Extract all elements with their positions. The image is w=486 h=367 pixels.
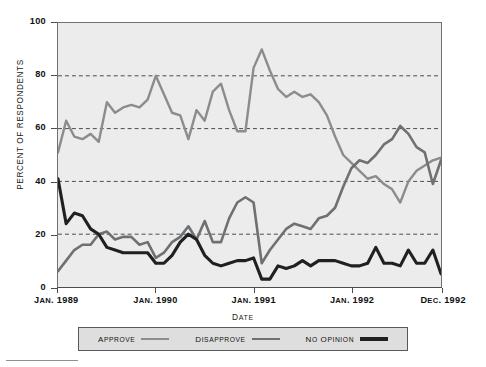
y-tick-label: 60 bbox=[0, 122, 46, 132]
poll-line-chart-figure: PERCENT OF RESPONDENTS 100806040200 JAN.… bbox=[0, 0, 486, 367]
plot-canvas bbox=[58, 23, 441, 287]
y-tick-label: 20 bbox=[0, 229, 46, 239]
y-tick-label: 40 bbox=[0, 176, 46, 186]
legend-label: NO OPINION bbox=[306, 335, 355, 344]
x-tick-mark bbox=[254, 288, 255, 293]
x-tick-label: JAN. 1991 bbox=[232, 295, 276, 305]
x-tick-mark bbox=[442, 288, 443, 293]
x-axis-title: DATE bbox=[0, 312, 486, 322]
scan-artifact-rule bbox=[6, 360, 78, 361]
x-tick-label: JAN. 1992 bbox=[330, 295, 374, 305]
legend-item-approve[interactable]: APPROVE bbox=[98, 335, 169, 344]
series-line-no-opinion bbox=[58, 179, 441, 279]
legend-swatch-icon bbox=[360, 337, 388, 340]
x-tick-label: DEC. 1992 bbox=[420, 295, 465, 305]
y-tick-label: 80 bbox=[0, 69, 46, 79]
legend-swatch-icon bbox=[252, 338, 280, 341]
y-tick-label: 0 bbox=[0, 282, 46, 292]
x-tick-mark bbox=[352, 288, 353, 293]
x-tick-mark bbox=[57, 288, 58, 293]
legend-item-no-opinion[interactable]: NO OPINION bbox=[306, 335, 389, 344]
legend-label: APPROVE bbox=[98, 335, 135, 344]
x-tick-label: JAN. 1990 bbox=[133, 295, 177, 305]
x-tick-mark bbox=[155, 288, 156, 293]
chart-legend: APPROVEDISAPPROVENO OPINION bbox=[78, 327, 408, 351]
plot-area bbox=[57, 22, 442, 288]
x-tick-label: JAN. 1989 bbox=[34, 295, 78, 305]
series-line-approve bbox=[58, 49, 441, 202]
y-tick-label: 100 bbox=[0, 16, 46, 26]
legend-item-disapprove[interactable]: DISAPPROVE bbox=[195, 335, 279, 344]
x-axis-title-text: DATE bbox=[232, 312, 254, 322]
legend-label: DISAPPROVE bbox=[195, 335, 245, 344]
legend-swatch-icon bbox=[141, 338, 169, 340]
